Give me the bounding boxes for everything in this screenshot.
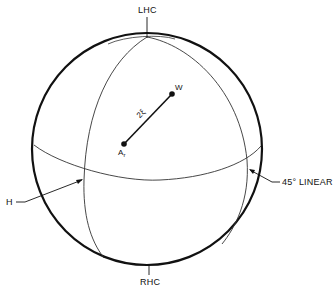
label-h: H [6, 198, 13, 207]
label-ar-sub: r [124, 152, 126, 158]
sphere-outline [32, 33, 262, 265]
h-leader [16, 180, 82, 202]
equator-line [34, 145, 261, 180]
linear-leader [250, 170, 280, 182]
poincare-sphere-diagram [0, 0, 336, 295]
label-45-linear: 45° LINEAR [282, 178, 333, 187]
label-lhc: LHC [138, 6, 157, 15]
h-arrowhead [76, 179, 83, 184]
label-rhc: RHC [140, 278, 160, 287]
linear-arrowhead [249, 169, 255, 174]
point-ar [121, 141, 127, 147]
arc-w-ar [124, 94, 172, 144]
label-w: W [175, 84, 183, 92]
label-ar: Ar [118, 149, 126, 158]
point-w [169, 91, 175, 97]
meridian-h [84, 37, 147, 258]
meridian-45 [147, 37, 247, 244]
